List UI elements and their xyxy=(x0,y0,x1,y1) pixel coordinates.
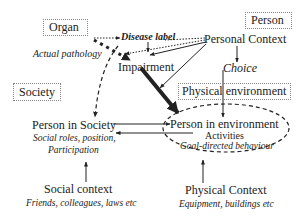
choice-node: Choice xyxy=(223,61,257,76)
person-in-society-sub2: Participation xyxy=(48,145,99,155)
diagram-canvas: Organ Person Society Physical environmen… xyxy=(0,0,302,217)
person-in-society-node: Person in Society xyxy=(32,118,116,133)
physical-context-sub: Equipment, buildings etc xyxy=(179,199,274,209)
social-context-node: Social context xyxy=(44,182,112,197)
organ-label: Organ xyxy=(49,20,79,35)
society-label: Society xyxy=(19,85,55,100)
person-box: Person xyxy=(245,12,292,29)
social-context-sub: Friends, colleagues, laws etc xyxy=(26,198,137,208)
activities-node: Activities xyxy=(205,130,244,141)
person-label: Person xyxy=(251,13,284,28)
personal-to-impairment-arrow xyxy=(150,42,206,55)
physical-environment-box: Physical environment xyxy=(178,83,291,100)
impairment-node: Impairment xyxy=(118,60,174,75)
society-box: Society xyxy=(13,83,61,101)
actual-pathology-label: Actual pathology xyxy=(33,48,102,59)
person-in-society-sub1: Social roles, position, xyxy=(33,133,116,143)
physical-context-node: Physical Context xyxy=(185,183,267,198)
organ-box: Organ xyxy=(43,19,88,36)
disease-label-node: Disease label xyxy=(121,31,175,42)
activities-sub: Goal-directed behaviour xyxy=(180,141,274,151)
physical-environment-label: Physical environment xyxy=(182,84,286,99)
personal-context-node: Personal Context xyxy=(204,32,286,47)
